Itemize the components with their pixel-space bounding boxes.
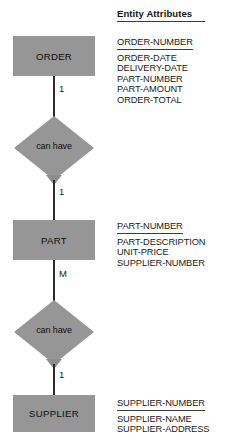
attribute-item: SUPPLIER-ADDRESS xyxy=(117,424,209,435)
entity-attributes-header: Entity Attributes xyxy=(117,8,192,19)
connector-order-to-relationship-1 xyxy=(53,76,55,117)
attribute-group-order: ORDER-NUMBER ORDER-DATE DELIVERY-DATE PA… xyxy=(117,31,193,105)
attribute-item: UNIT-PRICE xyxy=(117,247,205,258)
er-diagram: Entity Attributes ORDER ORDER-NUMBER ORD… xyxy=(0,0,225,440)
attribute-item: PART-NUMBER xyxy=(117,74,193,85)
attribute-item: SUPPLIER-NAME xyxy=(117,414,209,425)
entity-box-order[interactable]: ORDER xyxy=(13,36,95,76)
entity-label-order: ORDER xyxy=(36,51,72,62)
entity-box-supplier[interactable]: SUPPLIER xyxy=(13,395,95,432)
attribute-key-part-number: PART-NUMBER xyxy=(117,221,183,234)
connector-part-to-relationship-2 xyxy=(53,260,55,301)
relationship-label-can-have-2: can have xyxy=(14,325,94,335)
attribute-item: ORDER-TOTAL xyxy=(117,95,193,106)
connector-relationship-2-to-supplier xyxy=(53,364,55,395)
cardinality-supplier-side: 1 xyxy=(59,369,64,380)
cardinality-part-side-1: 1 xyxy=(59,186,64,197)
attribute-key-supplier-number: SUPPLIER-NUMBER xyxy=(117,398,205,411)
entity-label-supplier: SUPPLIER xyxy=(29,408,79,419)
attribute-item: ORDER-DATE xyxy=(117,53,193,64)
connector-relationship-1-to-part xyxy=(53,180,55,220)
cardinality-part-side-2: M xyxy=(59,268,67,279)
relationship-diamond-can-have-1[interactable]: can have xyxy=(14,116,94,180)
attribute-item: SUPPLIER-NUMBER xyxy=(117,258,205,269)
relationship-label-can-have-1: can have xyxy=(14,141,94,151)
attribute-group-part: PART-NUMBER PART-DESCRIPTION UNIT-PRICE … xyxy=(117,215,205,268)
entity-label-part: PART xyxy=(41,235,67,246)
attribute-item: DELIVERY-DATE xyxy=(117,63,193,74)
attribute-key-order-number: ORDER-NUMBER xyxy=(117,37,193,50)
attribute-group-supplier: SUPPLIER-NUMBER SUPPLIER-NAME SUPPLIER-A… xyxy=(117,392,209,435)
cardinality-order-side-1: 1 xyxy=(59,83,64,94)
attribute-item: PART-AMOUNT xyxy=(117,84,193,95)
relationship-diamond-can-have-2[interactable]: can have xyxy=(14,300,94,364)
attribute-item: PART-DESCRIPTION xyxy=(117,237,205,248)
entity-box-part[interactable]: PART xyxy=(13,220,95,260)
entity-attributes-header-rule xyxy=(117,21,205,22)
